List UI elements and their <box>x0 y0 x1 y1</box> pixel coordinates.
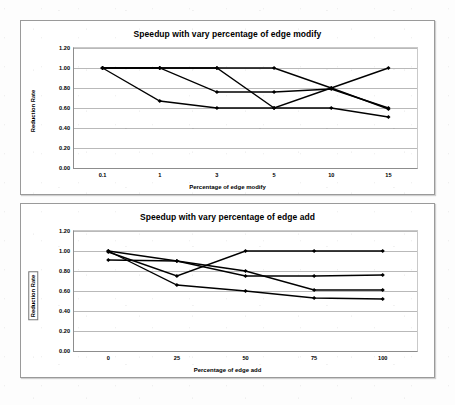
x-tick-label: 10 <box>328 172 334 178</box>
series-point-totinfo <box>215 90 219 94</box>
series-layer <box>74 231 417 351</box>
series-point-printtokens2 <box>175 274 179 278</box>
series-point-space <box>312 296 316 300</box>
series-point-space <box>243 289 247 293</box>
y-tick-label: 0.60 <box>59 105 70 111</box>
series-point-schedule2 <box>106 258 110 262</box>
x-tick-label: 100 <box>378 355 387 361</box>
y-tick-label: 1.20 <box>59 45 70 51</box>
chart-edge-add: Speedup with vary percentage of edge add… <box>20 203 435 378</box>
series-layer <box>74 48 417 168</box>
chart-title: Speedup with vary percentage of edge mod… <box>21 29 434 39</box>
series-point-schedule2 <box>175 259 179 263</box>
x-tick-label: 0 <box>107 355 110 361</box>
y-tick-label: 0.20 <box>59 328 70 334</box>
series-point-printtokens2 <box>243 249 247 253</box>
scanned-page: Speedup with vary percentage of edge mod… <box>0 0 455 405</box>
x-tick-label: 0.1 <box>99 172 107 178</box>
series-point-replace <box>243 269 247 273</box>
x-tick-label: 1 <box>158 172 161 178</box>
series-point-totinfo <box>272 90 276 94</box>
x-tick-label: 15 <box>385 172 391 178</box>
series-point-schedule <box>215 106 219 110</box>
y-tick-label: 0.80 <box>59 268 70 274</box>
y-axis-title: Reduction Rate <box>28 272 38 321</box>
x-axis-title: Percentage of edge add <box>21 367 434 373</box>
x-axis-title: Percentage of edge modify <box>21 184 434 190</box>
series-point-schedule <box>386 115 390 119</box>
y-tick-label: 0.00 <box>59 348 70 354</box>
x-tick-label: 3 <box>215 172 218 178</box>
x-tick-label: 5 <box>273 172 276 178</box>
y-tick-label: 1.00 <box>59 248 70 254</box>
series-line-tcas <box>103 68 389 108</box>
x-tick-label: 75 <box>311 355 317 361</box>
y-tick-label: 1.00 <box>59 65 70 71</box>
x-tick-label: 25 <box>174 355 180 361</box>
y-tick-label: 0.40 <box>59 125 70 131</box>
y-tick-label: 1.20 <box>59 228 70 234</box>
y-axis-title: Reduction Rate <box>30 90 36 133</box>
y-tick-label: 0.40 <box>59 308 70 314</box>
series-point-printtokens2 <box>381 249 385 253</box>
x-tick-label: 50 <box>242 355 248 361</box>
series-point-printtokens <box>158 66 162 70</box>
series-point-printtokens <box>272 66 276 70</box>
y-tick-label: 0.60 <box>59 288 70 294</box>
series-point-replace <box>381 288 385 292</box>
plot-area: 0.000.200.400.600.801.001.200255075100 <box>73 230 418 352</box>
y-tick-label: 0.80 <box>59 85 70 91</box>
series-point-tcas <box>386 66 390 70</box>
series-point-schedule2 <box>243 274 247 278</box>
y-tick-label: 0.20 <box>59 145 70 151</box>
chart-title: Speedup with vary percentage of edge add <box>21 212 434 222</box>
series-point-space <box>381 297 385 301</box>
y-tick-label: 0.00 <box>59 165 70 171</box>
series-point-schedule2 <box>312 274 316 278</box>
plot-area: 0.000.200.400.600.801.001.200.11351015 <box>73 47 418 169</box>
series-line-schedule2 <box>108 260 382 276</box>
series-point-schedule2 <box>381 273 385 277</box>
chart-edge-modify: Speedup with vary percentage of edge mod… <box>20 20 435 195</box>
series-point-replace <box>312 288 316 292</box>
series-point-schedule <box>329 106 333 110</box>
series-point-printtokens2 <box>312 249 316 253</box>
